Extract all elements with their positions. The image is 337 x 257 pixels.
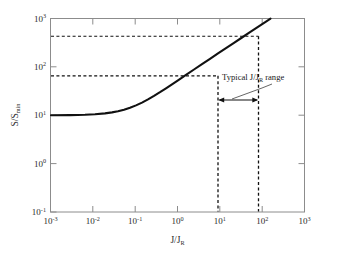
chart-figure: Typical J/JR range 10-3 10-2 10-1 100 10… [0, 0, 337, 257]
annotation-prefix: Typical J/J [222, 72, 260, 82]
typical-range-annotation: Typical J/JR range [222, 72, 284, 83]
log-log-plot: Typical J/JR range 10-3 10-2 10-1 100 10… [0, 0, 337, 257]
y-axis-denominator-subscript: min [14, 104, 21, 114]
annotation-suffix: range [263, 72, 284, 82]
